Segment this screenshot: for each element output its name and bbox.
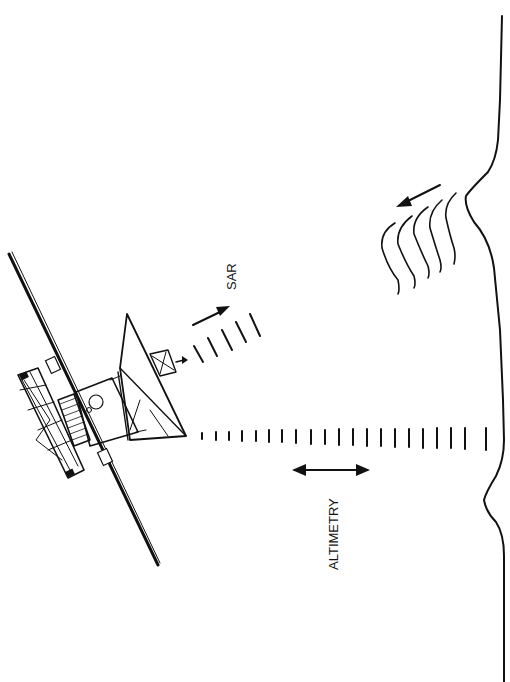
radar-diagram: SAR ALTIMETRY: [0, 0, 510, 682]
planet-surface-line: [466, 16, 504, 682]
spacecraft-illustration: [9, 252, 188, 565]
sar-direction-arrow-icon: [193, 306, 230, 325]
wave-direction-arrow-icon: [396, 185, 440, 207]
altimetry-double-arrow-icon: [292, 464, 370, 476]
altimetry-label: ALTIMETRY: [326, 498, 341, 570]
sar-beam: [194, 314, 260, 362]
sar-label: SAR: [224, 263, 239, 290]
altimetry-beam: [202, 428, 486, 450]
surface-waves: [382, 193, 456, 294]
